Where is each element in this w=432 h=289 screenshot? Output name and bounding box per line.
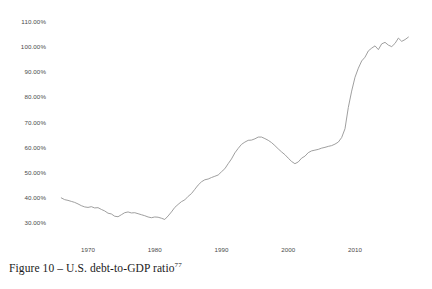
figure-caption-footnote: 77 [175, 261, 182, 269]
y-tick-label: 80.00% [0, 93, 46, 100]
x-tick-label: 1980 [135, 246, 175, 253]
y-tick-label: 40.00% [0, 194, 46, 201]
x-tick-label: 2010 [335, 246, 375, 253]
y-tick-label: 110.00% [0, 18, 46, 25]
y-tick-label: 30.00% [0, 219, 46, 226]
x-tick-label: 1990 [202, 246, 242, 253]
y-tick-label: 50.00% [0, 169, 46, 176]
figure-container: 110.00%100.00%90.00%80.00%70.00%60.00%50… [0, 0, 432, 289]
y-tick-label: 90.00% [0, 68, 46, 75]
chart-plot-area: 110.00%100.00%90.00%80.00%70.00%60.00%50… [0, 0, 432, 248]
figure-caption: Figure 10 – U.S. debt-to-GDP ratio77 [9, 262, 182, 274]
y-tick-label: 60.00% [0, 144, 46, 151]
figure-caption-text: Figure 10 – U.S. debt-to-GDP ratio [9, 262, 175, 274]
line-chart-svg [0, 0, 432, 248]
y-tick-label: 100.00% [0, 43, 46, 50]
chart-background [0, 0, 432, 248]
x-tick-label: 1970 [68, 246, 108, 253]
x-tick-label: 2000 [268, 246, 308, 253]
y-tick-label: 70.00% [0, 119, 46, 126]
